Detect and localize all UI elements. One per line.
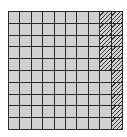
grid-cell	[43, 83, 53, 94]
grid-cell-hatched	[112, 106, 122, 117]
grid-cell	[77, 71, 87, 82]
grid-cell	[32, 106, 42, 117]
grid-cell	[66, 106, 76, 117]
grid-cell	[66, 47, 76, 58]
grid-cell	[77, 12, 87, 23]
grid-cell	[100, 118, 110, 129]
grid-cell	[77, 24, 87, 35]
grid-cell	[89, 71, 99, 82]
grid-cell	[20, 12, 30, 23]
grid-cell	[32, 12, 42, 23]
grid-cell	[100, 95, 110, 106]
grid-cell	[9, 95, 19, 106]
grid-cell	[100, 71, 110, 82]
grid-cell	[89, 95, 99, 106]
grid-cell	[89, 24, 99, 35]
grid-cell	[66, 36, 76, 47]
grid-cell	[89, 83, 99, 94]
grid-cell	[9, 24, 19, 35]
grid-cell	[32, 36, 42, 47]
grid-cell-hatched	[112, 118, 122, 129]
grid-cell	[89, 118, 99, 129]
grid-cell-hatched	[100, 24, 110, 35]
grid-cell	[9, 71, 19, 82]
grid-cell	[9, 12, 19, 23]
grid-cell	[20, 71, 30, 82]
grid-cell	[89, 59, 99, 70]
grid-cell	[66, 83, 76, 94]
grid-cell	[89, 12, 99, 23]
grid-cell	[89, 47, 99, 58]
grid-cell	[55, 47, 65, 58]
grid-cell	[77, 59, 87, 70]
grid-cell-hatched	[112, 36, 122, 47]
grid-cell	[20, 36, 30, 47]
grid-cell	[32, 47, 42, 58]
grid-cell	[43, 95, 53, 106]
grid-cell-hatched	[112, 47, 122, 58]
grid-cell	[43, 59, 53, 70]
grid-cell-hatched	[112, 83, 122, 94]
grid-cell	[20, 95, 30, 106]
grid-cell-hatched	[112, 95, 122, 106]
grid-cell	[55, 71, 65, 82]
grid-cell	[55, 59, 65, 70]
grid-cell	[77, 118, 87, 129]
grid-cell	[55, 118, 65, 129]
hundred-grid	[8, 11, 123, 130]
grid-cell	[20, 47, 30, 58]
grid-cell-hatched	[100, 59, 110, 70]
grid-cell	[20, 118, 30, 129]
grid-cell	[43, 106, 53, 117]
grid-cell	[20, 106, 30, 117]
grid-cell	[20, 59, 30, 70]
grid-cell	[9, 36, 19, 47]
grid-cell-hatched	[100, 12, 110, 23]
grid-cell	[9, 118, 19, 129]
grid-cell	[77, 83, 87, 94]
grid-cell-hatched	[112, 59, 122, 70]
grid-cell	[9, 59, 19, 70]
grid-cell	[32, 95, 42, 106]
grid-cell-hatched	[112, 24, 122, 35]
grid-cell	[77, 106, 87, 117]
grid-cell	[43, 12, 53, 23]
grid-cell	[66, 118, 76, 129]
grid-cell	[77, 95, 87, 106]
grid-cell	[77, 47, 87, 58]
grid-cell-hatched	[100, 47, 110, 58]
grid-cell	[32, 118, 42, 129]
grid-cell	[100, 83, 110, 94]
grid-cell	[66, 71, 76, 82]
grid-cell	[43, 118, 53, 129]
grid-cell	[66, 95, 76, 106]
grid-cell	[55, 95, 65, 106]
grid-cell	[43, 24, 53, 35]
grid-cell	[77, 36, 87, 47]
grid-cell	[43, 36, 53, 47]
grid-cell	[43, 47, 53, 58]
grid-cell	[100, 106, 110, 117]
grid-cell	[55, 36, 65, 47]
grid-cell-hatched	[112, 12, 122, 23]
grid-cell	[43, 71, 53, 82]
grid-cell-hatched	[112, 71, 122, 82]
grid-cell	[32, 59, 42, 70]
grid-cell-hatched	[100, 36, 110, 47]
grid-cell	[32, 71, 42, 82]
grid-cell	[32, 83, 42, 94]
grid-cell	[9, 106, 19, 117]
grid-cell	[66, 12, 76, 23]
grid-cell	[55, 106, 65, 117]
grid-cell	[9, 47, 19, 58]
grid-cell	[20, 83, 30, 94]
grid-cell	[55, 83, 65, 94]
grid-cell	[89, 36, 99, 47]
grid-cell	[89, 106, 99, 117]
grid-cell	[55, 12, 65, 23]
grid-cell	[32, 24, 42, 35]
grid-cell	[66, 24, 76, 35]
grid-cell	[66, 59, 76, 70]
grid-cell	[9, 83, 19, 94]
grid-cell	[55, 24, 65, 35]
